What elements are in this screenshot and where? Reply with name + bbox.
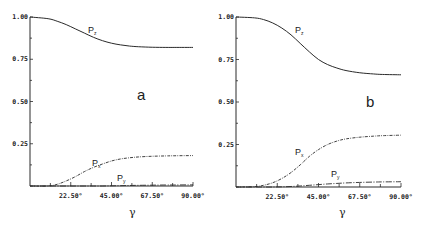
panel-b-xlabel: γ — [339, 206, 346, 219]
panel-a-xlabel: γ — [129, 206, 136, 219]
curve-pz — [30, 17, 193, 47]
y-tick-label: 1.00 — [12, 13, 28, 21]
y-tick-label: 1.00 — [218, 13, 234, 21]
panel-b-letter: b — [366, 93, 374, 110]
curve-px — [30, 156, 193, 187]
panel-b-chart: 0.250.500.751.0022.50°45.00°67.50°90.00°… — [218, 13, 412, 219]
panel-a-letter: a — [137, 86, 146, 103]
x-tick-label: 67.50° — [141, 192, 165, 200]
y-tick-label: 0.50 — [218, 98, 234, 106]
panel-a-label-py: Py — [117, 173, 126, 184]
panel-b-label-pz: Pz — [295, 25, 304, 36]
panel-b-label-px: Px — [295, 147, 304, 158]
y-tick-label: 0.25 — [218, 141, 234, 149]
y-tick-label: 0.75 — [12, 55, 28, 63]
panel-b-label-py: Py — [331, 169, 340, 180]
x-tick-label: 90.00° — [181, 192, 205, 200]
panel-b-axes: 0.250.500.751.0022.50°45.00°67.50°90.00° — [218, 13, 412, 201]
figure: 0.250.500.751.0022.50°45.00°67.50°90.00°… — [0, 0, 424, 226]
curve-px — [236, 135, 401, 187]
x-tick-label: 22.50° — [59, 192, 83, 200]
panel-a-curves — [30, 17, 193, 186]
y-tick-label: 0.75 — [218, 56, 234, 64]
x-tick-label: 45.00° — [307, 193, 331, 201]
panel-a-label-pz: Pz — [88, 25, 97, 36]
x-tick-label: 22.50° — [266, 193, 290, 201]
panel-a-chart: 0.250.500.751.0022.50°45.00°67.50°90.00°… — [12, 13, 204, 219]
y-tick-label: 0.50 — [12, 98, 28, 106]
panel-a-label-px: Px — [92, 158, 101, 169]
x-tick-label: 45.00° — [100, 192, 124, 200]
panel-b-curves — [236, 17, 401, 187]
x-tick-label: 90.00° — [389, 193, 413, 201]
x-tick-label: 67.50° — [348, 193, 372, 201]
curve-pz — [236, 17, 401, 75]
y-tick-label: 0.25 — [12, 140, 28, 148]
panel-a-axes: 0.250.500.751.0022.50°45.00°67.50°90.00° — [12, 13, 204, 200]
figure-canvas: 0.250.500.751.0022.50°45.00°67.50°90.00°… — [0, 0, 424, 226]
